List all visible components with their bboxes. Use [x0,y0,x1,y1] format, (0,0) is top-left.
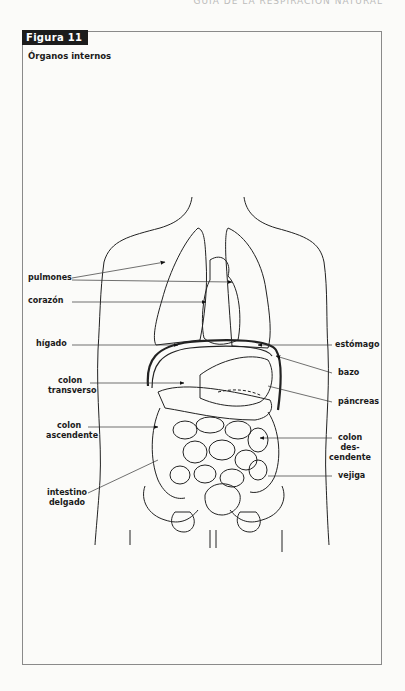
label-pancreas: páncreas [338,397,379,407]
label-higado: hígado [36,339,67,349]
liver [148,340,281,410]
label-intestino-delgado: intestino delgado [46,488,88,508]
stomach [200,357,272,406]
label-colon-transverso: colon transverso [48,376,92,396]
pelvis [144,486,284,522]
label-colon-descendente: colon des- cendente [328,433,372,463]
lung-left [226,228,271,348]
label-vejiga: vejiga [338,471,365,481]
lung-right [154,228,206,345]
bladder [205,484,240,515]
label-corazon: corazón [28,296,63,306]
label-pulmones: pulmones [28,273,72,283]
label-bazo: bazo [338,368,359,378]
leader-lines [72,262,332,493]
label-colon-ascendente: colon ascendente [46,421,92,441]
heart [202,257,239,344]
label-estomago: estómago [335,340,379,350]
